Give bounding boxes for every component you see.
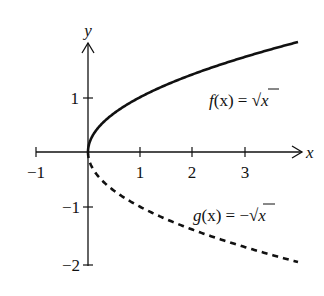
plot-area: −1 1 2 3 1 −1 −2 x y f(x) = √x g(x) = −√… (0, 0, 324, 296)
y-axis-label: y (82, 21, 92, 40)
x-tick-label: −1 (27, 163, 45, 182)
g-annotation: g(x) = −√x (193, 206, 266, 225)
x-tick-label: 2 (188, 163, 197, 182)
chart-figure: −1 1 2 3 1 −1 −2 x y f(x) = √x g(x) = −√… (0, 0, 324, 296)
y-tick-label: 1 (71, 89, 80, 108)
x-tick-label: 3 (241, 163, 250, 182)
x-axis-label: x (305, 143, 314, 162)
y-tick-label: −2 (62, 256, 80, 275)
x-tick-label: 1 (136, 163, 145, 182)
y-tick-label: −1 (62, 198, 80, 217)
f-annotation: f(x) = √x (209, 91, 269, 110)
